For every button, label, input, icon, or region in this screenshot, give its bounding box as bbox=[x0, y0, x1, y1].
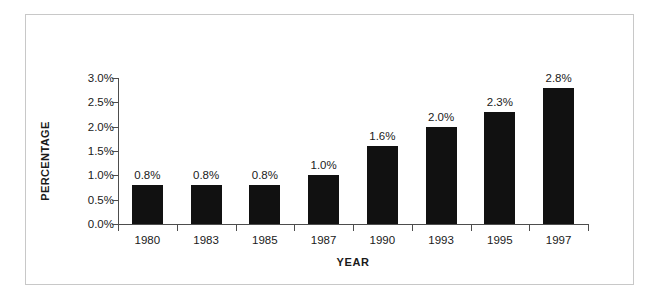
y-axis-tick-label: 3.0% bbox=[74, 72, 114, 85]
bar bbox=[191, 185, 222, 224]
bar-value-label: 0.8% bbox=[117, 169, 177, 182]
x-axis-category-label: 1983 bbox=[176, 233, 236, 247]
bar bbox=[426, 127, 457, 224]
x-axis-tick-mark bbox=[353, 224, 354, 231]
x-axis-tick-mark bbox=[588, 224, 589, 231]
y-axis-tick-labels: 0.0%0.5%1.0%1.5%2.0%2.5%3.0% bbox=[74, 70, 114, 232]
chart-figure: PERCENTAGE 0.0%0.5%1.0%1.5%2.0%2.5%3.0% … bbox=[0, 0, 659, 300]
bar-value-label: 0.8% bbox=[235, 169, 295, 182]
x-axis-category-label: 1985 bbox=[235, 233, 295, 247]
x-axis-category-label: 1987 bbox=[294, 233, 354, 247]
bar bbox=[132, 185, 163, 224]
x-axis-category-label: 1995 bbox=[470, 233, 530, 247]
bar bbox=[543, 88, 574, 224]
y-axis-title: PERCENTAGE bbox=[38, 96, 52, 226]
x-axis-tick-mark bbox=[118, 224, 119, 231]
y-axis-tick-label: 1.5% bbox=[74, 145, 114, 158]
x-axis-category-label: 1997 bbox=[529, 233, 589, 247]
y-axis-tick-label: 2.0% bbox=[74, 121, 114, 134]
x-axis-category-label: 1990 bbox=[352, 233, 412, 247]
x-axis-category-label: 1993 bbox=[411, 233, 471, 247]
bar-value-label: 2.8% bbox=[529, 72, 589, 85]
bar-value-label: 2.0% bbox=[411, 111, 471, 124]
y-axis-tick-label: 0.0% bbox=[74, 218, 114, 231]
bar-value-label: 0.8% bbox=[176, 169, 236, 182]
x-axis-tick-mark bbox=[177, 224, 178, 231]
bar bbox=[484, 112, 515, 224]
y-axis-tick-label: 2.5% bbox=[74, 96, 114, 109]
y-axis-tick-mark bbox=[112, 151, 119, 152]
x-axis-title: YEAR bbox=[118, 256, 588, 268]
x-axis-category-label: 1980 bbox=[117, 233, 177, 247]
y-axis-tick-mark bbox=[112, 78, 119, 79]
y-axis-tick-label: 1.0% bbox=[74, 169, 114, 182]
x-axis-tick-mark bbox=[236, 224, 237, 231]
x-axis-tick-mark bbox=[471, 224, 472, 231]
y-axis-tick-mark bbox=[112, 102, 119, 103]
y-axis-tick-mark bbox=[112, 175, 119, 176]
y-axis-tick-mark bbox=[112, 127, 119, 128]
x-axis-tick-mark bbox=[529, 224, 530, 231]
bar-value-label: 1.6% bbox=[352, 130, 412, 143]
bar-value-label: 2.3% bbox=[470, 96, 530, 109]
y-axis-tick-mark bbox=[112, 200, 119, 201]
x-axis-tick-mark bbox=[412, 224, 413, 231]
x-axis-tick-mark bbox=[294, 224, 295, 231]
bar bbox=[367, 146, 398, 224]
bar-value-label: 1.0% bbox=[294, 159, 354, 172]
y-axis-tick-label: 0.5% bbox=[74, 194, 114, 207]
bar bbox=[308, 175, 339, 224]
bar bbox=[249, 185, 280, 224]
y-axis-tick-mark bbox=[112, 224, 119, 225]
